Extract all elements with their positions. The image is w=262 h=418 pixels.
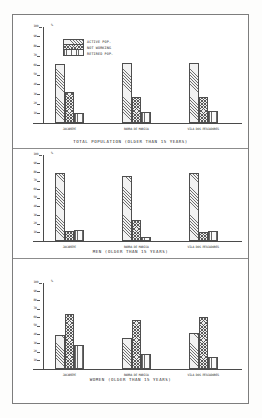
y-axis-tick-20: 20: [34, 222, 37, 225]
y-axis-tick-90: 90: [34, 290, 37, 293]
y-axis-tick-50: 50: [34, 324, 37, 327]
bar-group-2: [122, 283, 151, 369]
y-axis-tick-70: 70: [34, 179, 37, 182]
y-axis-tick-100: 100: [34, 281, 39, 284]
y-axis-tick-40: 40: [34, 333, 37, 336]
y-axis-tick-30: 30: [34, 93, 37, 96]
bar-group-1: [55, 27, 84, 123]
y-axis: [43, 27, 44, 123]
bar: [122, 338, 132, 369]
y-axis-tick-50: 50: [34, 196, 37, 199]
y-axis-tick-10: 10: [34, 112, 37, 115]
chart-panel-total: ACTIVE POP. NOT WORKING RETIRED POP. %10…: [13, 17, 248, 149]
figure-frame: ACTIVE POP. NOT WORKING RETIRED POP. %10…: [12, 14, 249, 404]
bar: [208, 357, 218, 369]
bar-group-2: [122, 155, 151, 241]
y-axis-tick-20: 20: [34, 350, 37, 353]
bar: [55, 173, 65, 241]
bar: [74, 345, 84, 369]
bar: [122, 176, 132, 241]
y-axis-tick-80: 80: [34, 171, 37, 174]
bar: [55, 335, 65, 369]
bar: [132, 97, 142, 123]
bar: [141, 112, 151, 123]
category-label: VILA DOS PESCADORES: [188, 127, 219, 131]
bar: [122, 63, 132, 123]
chart-title-women: WOMEN (OLDER THAN 15 YEARS): [13, 377, 248, 382]
y-axis-tick-90: 90: [34, 162, 37, 165]
y-axis: [43, 283, 44, 369]
bar: [199, 317, 209, 369]
bar-group-1: [55, 155, 84, 241]
bar-group-3: [189, 27, 218, 123]
y-axis-unit-label: %: [51, 279, 53, 283]
bar: [65, 231, 75, 241]
category-label: BARRA DE MARICA: [124, 127, 149, 131]
y-axis-tick-20: 20: [34, 102, 37, 105]
y-axis-tick-80: 80: [34, 299, 37, 302]
bar: [74, 113, 84, 123]
chart-title-total: TOTAL POPULATION (OLDER THAN 15 YEARS): [13, 139, 248, 144]
x-axis-baseline: [33, 123, 242, 124]
bar: [199, 97, 209, 123]
y-axis-tick-60: 60: [34, 64, 37, 67]
y-axis-tick-90: 90: [34, 35, 37, 38]
bar: [55, 64, 65, 123]
bar-group-1: [55, 283, 84, 369]
bar: [189, 173, 199, 241]
y-axis-tick-50: 50: [34, 73, 37, 76]
y-axis-tick-60: 60: [34, 316, 37, 319]
bar: [189, 63, 199, 123]
y-axis-tick-70: 70: [34, 307, 37, 310]
y-axis-tick-30: 30: [34, 214, 37, 217]
bar: [208, 111, 218, 123]
y-axis-tick-100: 100: [34, 25, 39, 28]
bar-group-2: [122, 27, 151, 123]
y-axis-tick-40: 40: [34, 205, 37, 208]
category-label: JACAREPE: [63, 127, 76, 131]
chart-panel-men: %100908070605040302010JACAREPEBARRA DE M…: [13, 149, 248, 259]
bar: [199, 232, 209, 241]
y-axis-tick-10: 10: [34, 231, 37, 234]
y-axis-unit-label: %: [51, 151, 53, 155]
plot-area-total: %100908070605040302010JACAREPEBARRA DE M…: [33, 27, 242, 127]
y-axis-tick-30: 30: [34, 342, 37, 345]
y-axis-tick-100: 100: [34, 153, 39, 156]
bar: [189, 333, 199, 369]
bar: [65, 92, 75, 123]
y-axis: [43, 155, 44, 241]
y-axis-tick-40: 40: [34, 83, 37, 86]
bar: [141, 354, 151, 369]
bar: [141, 237, 151, 241]
y-axis-tick-80: 80: [34, 45, 37, 48]
y-axis-tick-60: 60: [34, 188, 37, 191]
bar: [132, 220, 142, 242]
y-axis-tick-70: 70: [34, 54, 37, 57]
plot-area-women: %100908070605040302010JACAREPEBARRA DE M…: [33, 283, 242, 373]
bar-group-3: [189, 155, 218, 241]
bar: [208, 231, 218, 241]
bar: [74, 230, 84, 241]
y-axis-unit-label: %: [51, 23, 53, 27]
bar-group-3: [189, 283, 218, 369]
chart-title-men: MEN (OLDER THAN 15 YEARS): [13, 249, 248, 254]
bar: [65, 314, 75, 369]
y-axis-tick-10: 10: [34, 359, 37, 362]
x-axis-baseline: [33, 369, 242, 370]
plot-area-men: %100908070605040302010JACAREPEBARRA DE M…: [33, 155, 242, 245]
x-axis-baseline: [33, 241, 242, 242]
bar: [132, 320, 142, 369]
chart-panel-women: %100908070605040302010JACAREPEBARRA DE M…: [13, 259, 248, 403]
